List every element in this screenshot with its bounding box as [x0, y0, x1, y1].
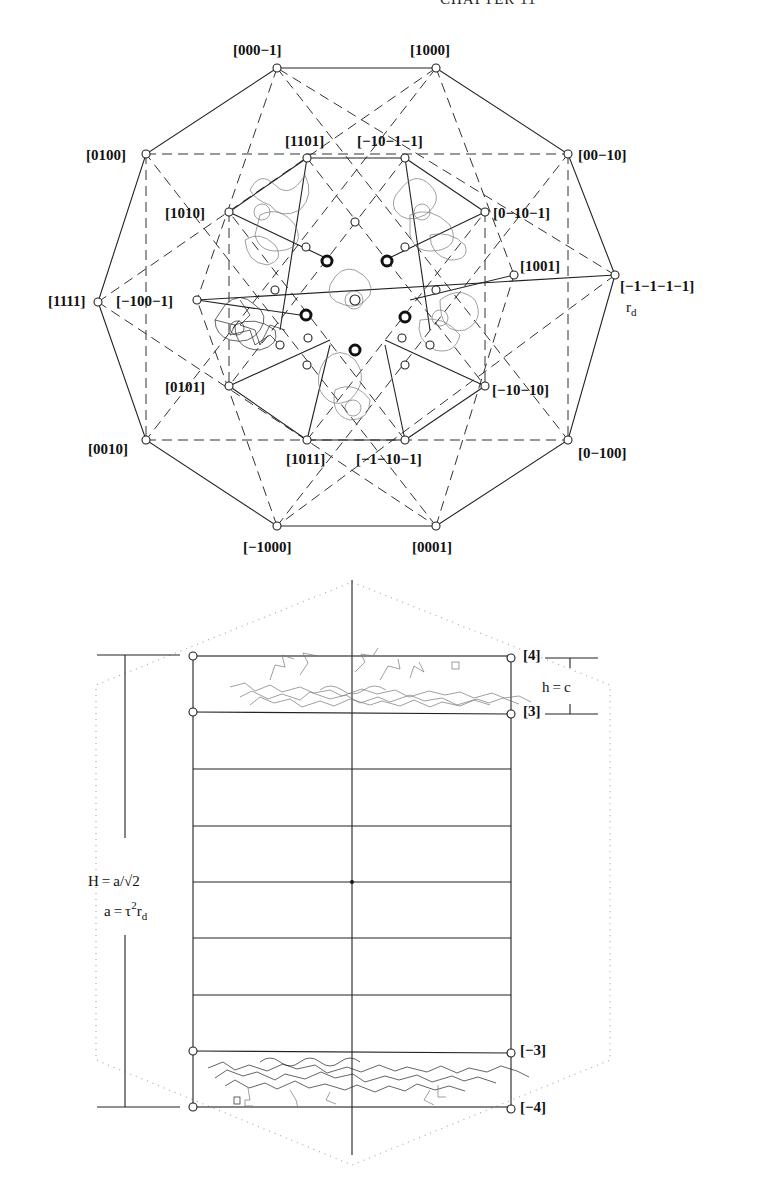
- radius-label: rd: [626, 299, 637, 318]
- dislocation-tangles-dark: [215, 298, 285, 351]
- layer-label-3: [3]: [523, 703, 541, 719]
- label-1101: [1101]: [285, 133, 324, 149]
- label-1001: [1001]: [520, 258, 560, 274]
- label-1011: [1011]: [286, 451, 325, 467]
- layer-label-4: [4]: [523, 647, 541, 663]
- label-000m1: [000−1]: [233, 42, 282, 58]
- label-0001: [0001]: [412, 539, 452, 555]
- label-1111: [1111]: [48, 293, 86, 309]
- label-0010: [0010]: [88, 441, 128, 457]
- layer-label-m3: [−3]: [520, 1042, 546, 1058]
- label-m100m1: [−100−1]: [116, 293, 173, 309]
- figure-canvas: [000−1] [1000] [00−10] [−1−1−1−1] [0−100…: [0, 0, 770, 1182]
- label-0101: [0101]: [165, 379, 205, 395]
- H-formula: H = a/√2: [88, 873, 140, 889]
- decagon-figure: [000−1] [1000] [00−10] [−1−1−1−1] [0−100…: [48, 42, 694, 555]
- label-m10m1m1: [−10−1−1]: [357, 133, 423, 149]
- dotted-hexagon: [96, 582, 610, 1165]
- label-1000: [1000]: [410, 42, 450, 58]
- label-m10m10: [−10−10]: [492, 382, 549, 398]
- label-0100: [0100]: [86, 147, 126, 163]
- layer-label-m4: [−4]: [520, 1099, 546, 1115]
- label-0m100: [0−100]: [578, 445, 627, 461]
- top-layer-tangle: [230, 648, 531, 707]
- prism-figure: H = a/√2 a = τ2rd h = c [4] [3] [−3] [−4…: [88, 580, 610, 1165]
- h-formula: h = c: [542, 679, 571, 695]
- label-m1m10m1: [−1−10−1]: [356, 451, 422, 467]
- bottom-layer-tangle: [208, 1058, 529, 1108]
- label-m1m1m1m1: [−1−1−1−1]: [620, 278, 694, 294]
- label-00m10: [00−10]: [578, 147, 627, 163]
- a-formula: a = τ2rd: [104, 899, 148, 922]
- label-0m10m1: [0−10−1]: [493, 205, 550, 221]
- label-m1000: [−1000]: [243, 539, 292, 555]
- label-1010: [1010]: [165, 205, 205, 221]
